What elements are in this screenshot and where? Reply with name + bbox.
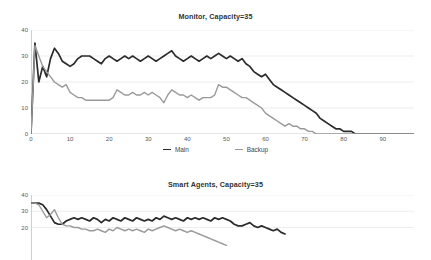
- y-tick-label: 20: [6, 225, 28, 231]
- x-tick-label: 10: [67, 136, 74, 143]
- chart-smart-agents: Smart Agents, Capacity=35 203040: [0, 170, 431, 260]
- gridlines: [31, 195, 414, 260]
- y-tick-label: 10: [6, 105, 28, 111]
- charts-page: Monitor, Capacity=35 010203040 010203040…: [0, 0, 431, 260]
- y-axis-ticks: 010203040: [0, 30, 28, 134]
- x-tick-label: 70: [301, 136, 308, 143]
- y-tick-label: 30: [6, 208, 28, 214]
- x-tick-label: 20: [106, 136, 113, 143]
- chart-legend: MainBackup: [0, 146, 431, 153]
- chart-title: Monitor, Capacity=35: [0, 12, 431, 21]
- y-tick-label: 0: [6, 131, 28, 137]
- x-tick-label: 50: [223, 136, 230, 143]
- legend-label: Main: [175, 146, 189, 153]
- series-lines: [31, 43, 414, 134]
- x-tick-label: 30: [145, 136, 152, 143]
- x-tick-label: 0: [29, 136, 32, 143]
- series-line-main: [31, 203, 285, 234]
- plot-svg: [31, 30, 414, 134]
- x-tick-label: 60: [262, 136, 269, 143]
- series-lines: [31, 203, 285, 245]
- y-tick-label: 30: [6, 53, 28, 59]
- x-tick-label: 90: [379, 136, 386, 143]
- x-tick-label: 80: [340, 136, 347, 143]
- x-tick-label: 40: [184, 136, 191, 143]
- y-tick-label: 40: [6, 192, 28, 198]
- chart-title: Smart Agents, Capacity=35: [0, 180, 431, 189]
- legend-label: Backup: [247, 146, 268, 153]
- plot-area: [31, 195, 414, 260]
- legend-item-backup[interactable]: Backup: [235, 146, 268, 153]
- plot-area: [31, 30, 414, 134]
- y-tick-label: 40: [6, 27, 28, 33]
- series-line-main: [31, 43, 414, 134]
- legend-item-main[interactable]: Main: [163, 146, 189, 153]
- x-axis-ticks: 0102030405060708090: [31, 136, 414, 146]
- y-tick-label: 20: [6, 79, 28, 85]
- chart-monitor: Monitor, Capacity=35 010203040 010203040…: [0, 0, 431, 170]
- y-axis-ticks: 203040: [0, 195, 28, 260]
- plot-svg: [31, 195, 414, 260]
- legend-swatch-icon: [163, 149, 171, 151]
- legend-swatch-icon: [235, 149, 243, 151]
- series-line-backup: [31, 46, 414, 134]
- gridlines: [31, 30, 414, 134]
